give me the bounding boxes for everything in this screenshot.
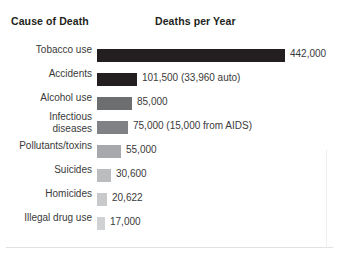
bar-value-label: 442,000 xyxy=(290,48,326,59)
bar-category-label: Accidents xyxy=(0,68,92,80)
chart-row: Homicides20,622 xyxy=(0,188,339,212)
chart-header-row: Cause of Death Deaths per Year xyxy=(0,15,339,31)
bottom-divider xyxy=(6,247,333,248)
bar-value-label: 20,622 xyxy=(112,192,143,203)
chart-row: Accidents101,500 (33,960 auto) xyxy=(0,68,339,92)
bar-category-label: Alcohol use xyxy=(0,92,92,104)
chart-rows: Tobacco use442,000Accidents101,500 (33,9… xyxy=(0,44,339,236)
column-header-deaths-per-year: Deaths per Year xyxy=(155,15,236,27)
bar-value-label: 17,000 xyxy=(110,216,141,227)
chart-row: Illegal drug use17,000 xyxy=(0,212,339,236)
bar-value-label: 55,000 xyxy=(126,144,157,155)
chart-row: Infectious diseases75,000 (15,000 from A… xyxy=(0,116,339,140)
bar-value-label: 30,600 xyxy=(116,168,147,179)
chart-row: Tobacco use442,000 xyxy=(0,44,339,68)
bar xyxy=(97,217,105,230)
bar xyxy=(97,49,285,62)
bar xyxy=(97,121,128,134)
bar xyxy=(97,97,132,110)
bar-category-label: Suicides xyxy=(0,164,92,176)
chart-row: Pollutants/toxins55,000 xyxy=(0,140,339,164)
right-edge-divider xyxy=(326,150,327,248)
bar-value-label: 101,500 (33,960 auto) xyxy=(142,72,240,83)
column-header-cause-of-death: Cause of Death xyxy=(11,15,89,27)
bar-category-label: Homicides xyxy=(0,188,92,200)
bar-value-label: 85,000 xyxy=(137,96,168,107)
chart-row: Suicides30,600 xyxy=(0,164,339,188)
bar xyxy=(97,169,111,182)
bar-category-label: Tobacco use xyxy=(0,44,92,56)
bar-category-label: Infectious diseases xyxy=(0,111,92,135)
bar-value-label: 75,000 (15,000 from AIDS) xyxy=(133,120,252,131)
bar xyxy=(97,145,121,158)
bar xyxy=(97,193,107,206)
bar-category-label: Pollutants/toxins xyxy=(0,140,92,152)
bar-track xyxy=(97,97,327,110)
bar-category-label: Illegal drug use xyxy=(0,212,92,224)
deaths-per-year-bar-chart: Cause of Death Deaths per Year Tobacco u… xyxy=(0,0,339,257)
bar xyxy=(97,73,137,86)
